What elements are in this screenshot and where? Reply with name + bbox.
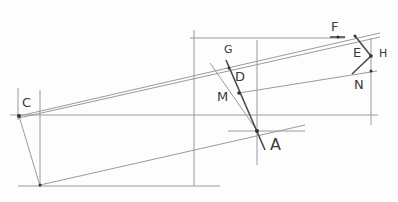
point-G [228,67,231,70]
label-H: H [379,48,387,59]
point-N-projection [370,70,373,73]
label-M: M [217,90,228,103]
line-C-E-upper [19,33,380,116]
label-F: F [331,20,338,33]
label-C: C [22,96,31,109]
line-C-B [19,116,40,186]
main-strokes [226,36,371,150]
label-G: G [224,44,233,55]
point-H [369,54,373,58]
line-B-A [40,125,305,185]
point-M [237,91,241,95]
point-E [354,35,357,38]
points [17,35,373,187]
point-C [17,114,21,118]
line-C-E-lower [19,37,380,118]
point-F [337,36,340,39]
point-B [39,184,42,187]
point-A [255,129,259,133]
construction-lines [10,30,380,187]
line-G-A [226,60,265,150]
geometry-sketch: C F G D M A E H N [0,0,398,202]
label-A: A [270,137,281,153]
label-D: D [235,70,245,83]
label-E: E [353,46,361,59]
label-N: N [354,78,364,91]
